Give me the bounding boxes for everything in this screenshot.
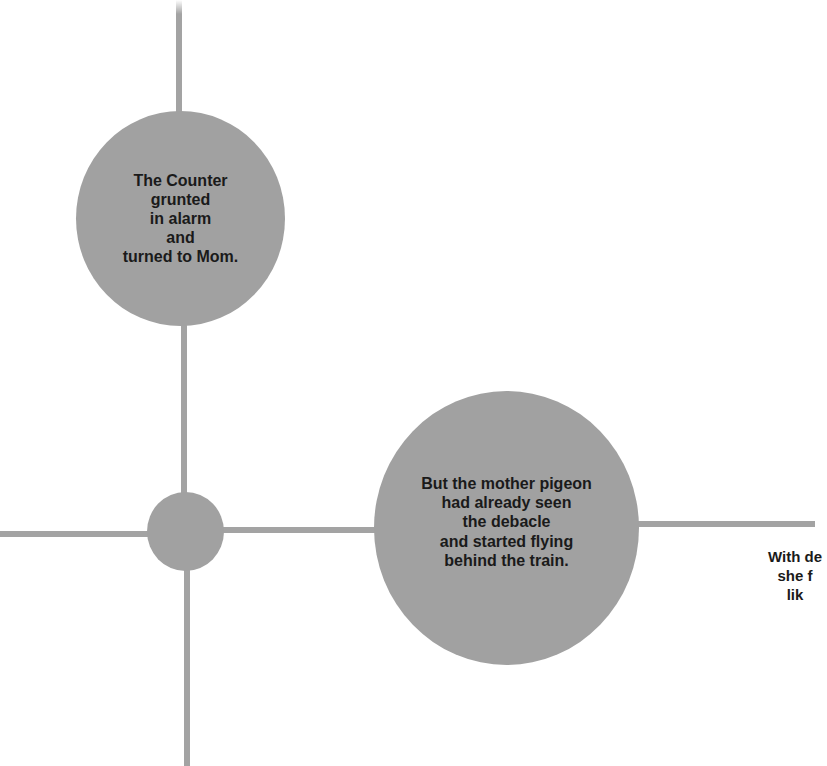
connector-top-vertical [176, 0, 182, 112]
connector-counter-to-junction [181, 322, 187, 497]
cropped-story-text: With de she f lik [750, 548, 827, 604]
connector-bottom-vertical [184, 568, 190, 766]
junction-node [147, 492, 224, 571]
connector-right-horizontal [636, 521, 815, 527]
story-node-text: The Counter grunted in alarm and turned … [123, 171, 239, 267]
story-node-pigeon: But the mother pigeon had already seen t… [374, 391, 639, 665]
story-node-counter: The Counter grunted in alarm and turned … [76, 111, 285, 326]
connector-left-horizontal [0, 531, 150, 537]
connector-junction-to-pigeon [222, 527, 378, 533]
top-fade [160, 0, 200, 14]
story-node-text: But the mother pigeon had already seen t… [421, 474, 592, 570]
